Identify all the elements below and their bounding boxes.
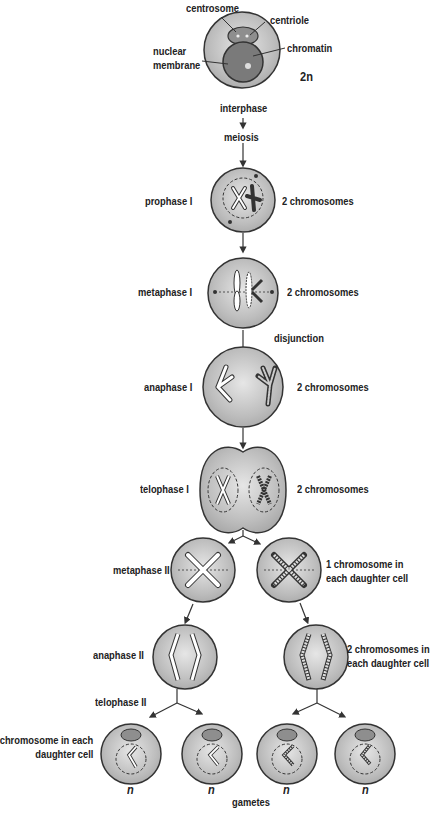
label-disjunction: disjunction (274, 332, 324, 345)
gamete-4 (335, 724, 395, 784)
label-telophase-i-note: 2 chromosomes (297, 483, 369, 496)
label-meiosis: meiosis (224, 131, 259, 144)
telophase-i-cell (200, 447, 286, 533)
label-metaphase-i: metaphase I (138, 286, 192, 299)
metaphase-ii-left-cell (171, 538, 235, 602)
label-anaphase-ii-note-2: each daughter cell (347, 657, 429, 670)
metaphase-i-cell (208, 258, 278, 328)
anaphase-ii-right-cell (284, 625, 348, 689)
anaphase-ii-left-cell (153, 625, 217, 689)
metaphase-ii-right-cell (257, 538, 321, 602)
label-telophase-ii-note-2: daughter cell (35, 748, 93, 761)
label-gametes: gametes (232, 796, 270, 809)
label-anaphase-i-note: 2 chromosomes (297, 381, 369, 394)
anaphase-i-cell (203, 347, 283, 427)
meiosis-diagram (0, 0, 431, 821)
gamete-2 (182, 724, 242, 784)
label-telophase-ii-note-1: 1 chromosome in each (0, 734, 93, 747)
label-prophase-i: prophase I (145, 195, 192, 208)
label-nuclear-membrane-2: membrane (153, 59, 200, 72)
label-anaphase-ii-note-1: 2 chromosomes in (347, 643, 430, 656)
label-anaphase-ii: anaphase II (93, 649, 144, 662)
label-metaphase-i-note: 2 chromosomes (287, 286, 359, 299)
label-anaphase-i: anaphase I (144, 381, 192, 394)
label-metaphase-ii-note-2: each daughter cell (326, 572, 408, 585)
label-gamete-4-ploidy: n (362, 783, 369, 796)
label-centrosome: centrosome (186, 2, 239, 15)
label-centriole: centriole (270, 14, 309, 27)
label-telophase-i: telophase I (140, 483, 189, 496)
label-gamete-3-ploidy: n (283, 783, 290, 796)
label-gamete-2-ploidy: n (208, 783, 215, 796)
label-nuclear-membrane-1: nuclear (153, 45, 186, 58)
label-gamete-1-ploidy: n (127, 783, 134, 796)
label-metaphase-ii-note-1: 1 chromosome in (326, 558, 403, 571)
label-prophase-i-note: 2 chromosomes (282, 195, 354, 208)
label-metaphase-ii: metaphase II (113, 564, 170, 577)
gamete-1 (101, 724, 161, 784)
label-telophase-ii: telophase II (95, 696, 146, 709)
nucleus-shape (223, 42, 263, 82)
label-interphase: interphase (220, 102, 267, 115)
label-chromatin: chromatin (287, 42, 332, 55)
gamete-3 (257, 724, 317, 784)
prophase-i-cell (211, 168, 275, 232)
label-ploidy-2n: 2n (300, 70, 313, 83)
